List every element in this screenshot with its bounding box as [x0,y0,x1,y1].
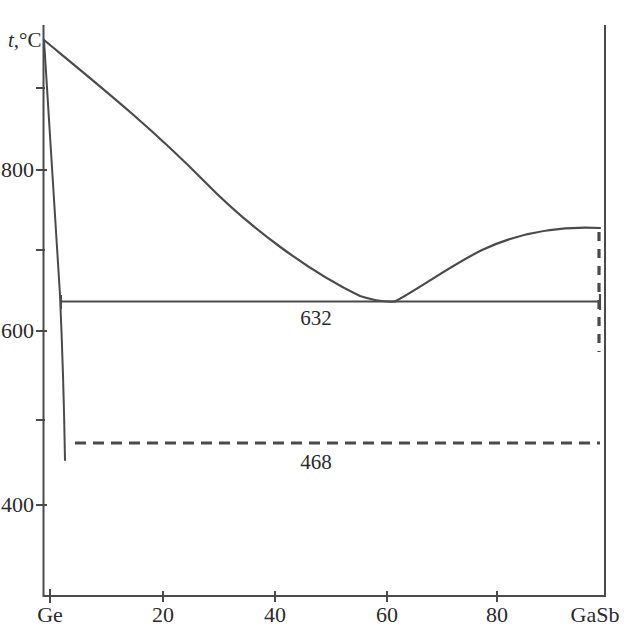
y-axis-title: t,°C [8,30,42,51]
x-tick-label-20: 20 [131,604,195,626]
y-tick-label-600: 600 [0,320,34,342]
x-tick-label-40: 40 [243,604,307,626]
phase-diagram-figure: t,°C 800 600 400 Ge 20 40 60 80 GaSb 632… [0,0,630,629]
x-tick-label-60: 60 [355,604,419,626]
y-axis-title-unit: ,°C [14,28,42,52]
annotation-label-468: 468 [281,452,351,473]
ge-liquidus-curve [44,40,395,302]
x-tick-label-80: 80 [465,604,529,626]
gasb-liquidus-curve [395,228,600,302]
annotation-label-632: 632 [281,308,351,329]
x-tick-label-ge: Ge [18,604,82,626]
y-tick-label-800: 800 [0,159,34,181]
ge-solidus-curve [44,40,65,460]
y-tick-label-400: 400 [0,494,34,516]
y-axis-ticks [36,88,47,505]
x-tick-label-gasb: GaSb [560,604,630,626]
